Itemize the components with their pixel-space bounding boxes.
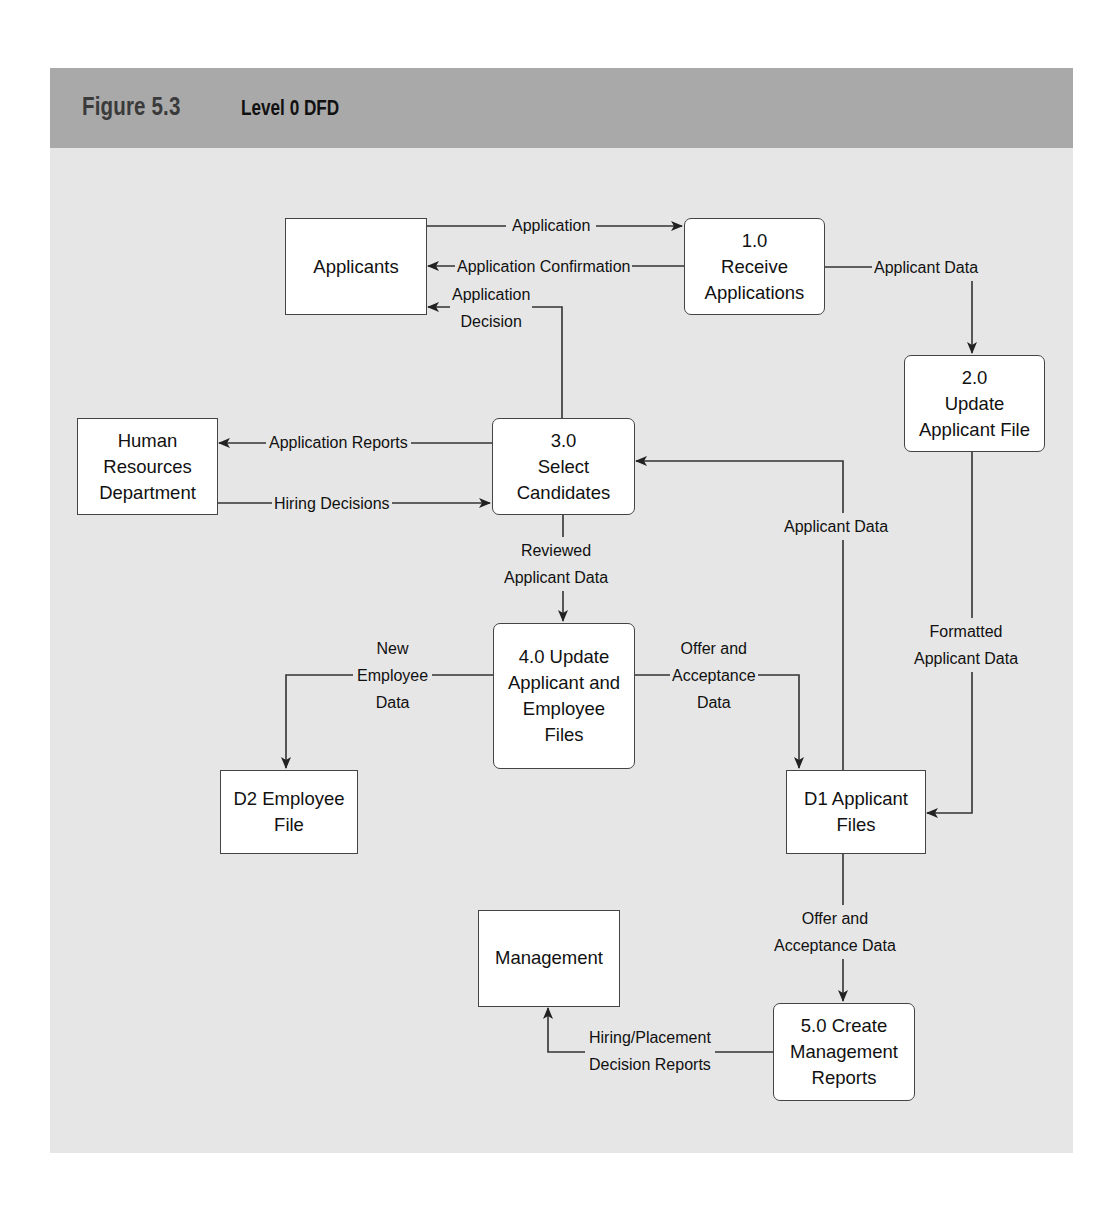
node-label: Resources bbox=[103, 454, 191, 480]
label-hiring-decisions: Hiring Decisions bbox=[272, 490, 392, 517]
node-label: 4.0 Update bbox=[519, 644, 610, 670]
flow-label-text: Application bbox=[452, 281, 530, 308]
label-applicant-data-1: Applicant Data bbox=[872, 254, 980, 281]
node-label: Receive bbox=[721, 254, 788, 280]
node-label: D2 Employee bbox=[233, 786, 344, 812]
node-label: Applicants bbox=[313, 254, 398, 280]
process-2-update-applicant-file: 2.0 Update Applicant File bbox=[904, 355, 1045, 452]
flow-label-text: Hiring Decisions bbox=[274, 495, 390, 512]
label-reviewed-applicant-data: Reviewed Applicant Data bbox=[502, 537, 610, 591]
node-label: 5.0 Create bbox=[801, 1013, 887, 1039]
flow-label-text: Applicant Data bbox=[504, 564, 608, 591]
process-5-create-management-reports: 5.0 Create Management Reports bbox=[773, 1003, 915, 1101]
label-application-reports: Application Reports bbox=[266, 429, 411, 456]
node-label: Update bbox=[945, 391, 1005, 417]
label-offer-acceptance-2: Offer and Acceptance Data bbox=[772, 905, 898, 959]
flow-label-text: Offer and bbox=[672, 635, 756, 662]
node-label: Candidates bbox=[517, 480, 611, 506]
node-label: 1.0 bbox=[742, 228, 768, 254]
process-3-select-candidates: 3.0 Select Candidates bbox=[492, 418, 635, 515]
entity-management: Management bbox=[478, 910, 620, 1007]
label-new-employee-data: New Employee Data bbox=[353, 635, 432, 716]
label-offer-acceptance-1: Offer and Acceptance Data bbox=[670, 635, 758, 716]
node-label: Select bbox=[538, 454, 589, 480]
flow-label-text: Acceptance bbox=[672, 662, 756, 689]
datastore-d1-applicant-files: D1 Applicant Files bbox=[786, 770, 926, 854]
flow-label-text: Data bbox=[357, 689, 428, 716]
node-label: Reports bbox=[812, 1065, 877, 1091]
flow-label-text: Data bbox=[672, 689, 756, 716]
flow-label-text: New bbox=[357, 635, 428, 662]
node-label: D1 Applicant bbox=[804, 786, 908, 812]
flow-label-text: Formatted bbox=[914, 618, 1018, 645]
label-applicant-data-2: Applicant Data bbox=[782, 513, 890, 540]
label-application-decision: Application Decision bbox=[450, 281, 532, 335]
node-label: Human bbox=[118, 428, 178, 454]
node-label: Applicant and bbox=[508, 670, 620, 696]
process-4-update-applicant-employee-files: 4.0 Update Applicant and Employee Files bbox=[493, 623, 635, 769]
flow-label-text: Applicant Data bbox=[914, 645, 1018, 672]
node-label: Applicant File bbox=[919, 417, 1030, 443]
node-label: Files bbox=[544, 722, 583, 748]
node-label: Department bbox=[99, 480, 196, 506]
flow-lines bbox=[0, 0, 1118, 1206]
node-label: Management bbox=[790, 1039, 898, 1065]
node-label: Management bbox=[495, 945, 603, 971]
label-application: Application bbox=[506, 212, 596, 239]
flow-label-text: Applicant Data bbox=[874, 259, 978, 276]
flow-label-text: Application Reports bbox=[269, 434, 408, 451]
entity-hr-department: Human Resources Department bbox=[77, 418, 218, 515]
flow-label-text: Decision Reports bbox=[589, 1051, 711, 1078]
label-formatted-applicant-data: Formatted Applicant Data bbox=[912, 618, 1020, 672]
flow-label-text: Offer and bbox=[774, 905, 896, 932]
flow-label-text: Applicant Data bbox=[784, 518, 888, 535]
flow-label-text: Employee bbox=[357, 662, 428, 689]
flow-label-text: Application bbox=[512, 217, 590, 234]
flow-label-text: Hiring/Placement bbox=[589, 1024, 711, 1051]
node-label: Employee bbox=[523, 696, 605, 722]
datastore-d2-employee-file: D2 Employee File bbox=[220, 770, 358, 854]
node-label: File bbox=[274, 812, 304, 838]
node-label: Files bbox=[836, 812, 875, 838]
node-label: 2.0 bbox=[962, 365, 988, 391]
flow-applicant-data-2 bbox=[636, 461, 843, 770]
flow-label-text: Application Confirmation bbox=[457, 258, 630, 275]
process-1-receive-applications: 1.0 Receive Applications bbox=[684, 218, 825, 315]
node-label: 3.0 bbox=[551, 428, 577, 454]
node-label: Applications bbox=[705, 280, 805, 306]
flow-label-text: Decision bbox=[452, 308, 530, 335]
flow-label-text: Acceptance Data bbox=[774, 932, 896, 959]
label-hiring-placement-reports: Hiring/Placement Decision Reports bbox=[585, 1024, 715, 1078]
label-application-confirmation: Application Confirmation bbox=[455, 253, 632, 280]
flow-label-text: Reviewed bbox=[504, 537, 608, 564]
entity-applicants: Applicants bbox=[285, 218, 427, 315]
